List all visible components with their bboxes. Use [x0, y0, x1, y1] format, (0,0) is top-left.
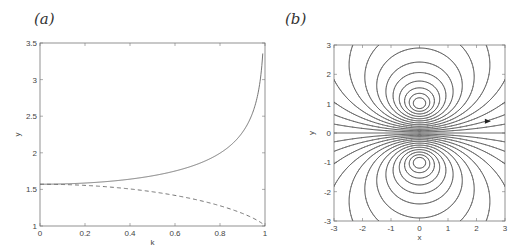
y-axis-label: y — [307, 131, 316, 135]
contour-line — [386, 145, 453, 204]
y-tick-label: 2 — [327, 70, 332, 79]
x-tick-label: 2 — [474, 224, 479, 233]
contour-line — [349, 140, 490, 227]
y-tick-label: -1 — [324, 158, 332, 167]
x-tick-label: -3 — [330, 224, 338, 233]
y-tick-label: 0 — [327, 129, 332, 138]
x-axis-label: x — [418, 233, 422, 242]
y-tick-label: -3 — [324, 217, 332, 226]
y-tick-label: -2 — [324, 188, 332, 197]
arrow-marker-icon — [485, 119, 491, 124]
chart-b: -3-2-10123-3-2-10123xy — [0, 0, 528, 252]
x-tick-label: -1 — [387, 224, 395, 233]
x-tick-label: 0 — [417, 224, 422, 233]
contour-line — [386, 62, 453, 121]
contour-lines — [328, 39, 510, 227]
x-tick-label: 3 — [503, 224, 508, 233]
contour-line — [393, 147, 446, 193]
contour-line — [413, 98, 425, 109]
contour-line — [413, 157, 425, 168]
contour-line — [365, 141, 474, 227]
contour-line — [393, 73, 446, 119]
x-tick-label: -2 — [359, 224, 367, 233]
y-tick-label: 1 — [327, 100, 332, 109]
y-tick-label: 3 — [327, 41, 332, 50]
contour-line — [349, 39, 490, 126]
contour-line — [365, 39, 474, 125]
x-tick-label: 1 — [446, 224, 451, 233]
